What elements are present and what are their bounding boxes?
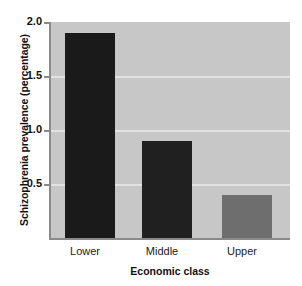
bar-middle[interactable] bbox=[142, 141, 192, 238]
y-tick-mark-1-5 bbox=[44, 76, 50, 78]
y-tick-label-0-5: 0.5 bbox=[2, 177, 42, 189]
y-tick-mark-2-0 bbox=[44, 22, 50, 24]
x-tick-label-upper: Upper bbox=[197, 245, 287, 257]
plot-area bbox=[50, 22, 290, 238]
bar-chart-figure: Schizophrenia prevalence (percentage) 2.… bbox=[0, 0, 302, 286]
x-tick-label-middle: Middle bbox=[117, 245, 207, 257]
y-tick-mark-1-0 bbox=[44, 130, 50, 132]
x-axis-line bbox=[49, 238, 290, 240]
y-tick-label-2-0: 2.0 bbox=[2, 15, 42, 27]
bar-upper[interactable] bbox=[222, 195, 272, 238]
y-tick-label-1-0: 1.0 bbox=[2, 123, 42, 135]
bar-lower[interactable] bbox=[65, 33, 115, 238]
y-tick-label-1-5: 1.5 bbox=[2, 69, 42, 81]
y-tick-mark-0-5 bbox=[44, 184, 50, 186]
x-axis-title: Economic class bbox=[50, 265, 290, 277]
